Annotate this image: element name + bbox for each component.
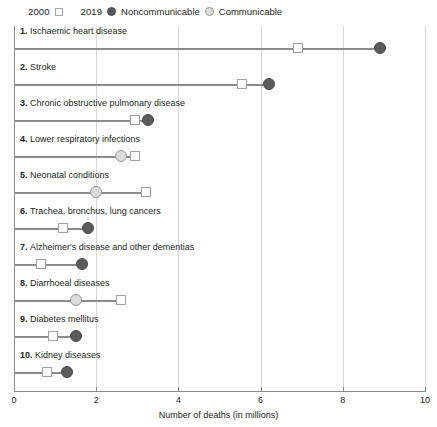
marker-2019[interactable] — [263, 78, 275, 90]
chart-row: 3. Chronic obstructive pulmonary disease — [0, 98, 437, 134]
legend-item-2019: 2019 Noncommunicable Communicable — [81, 7, 283, 17]
row-name: Chronic obstructive pulmonary disease — [30, 98, 185, 108]
row-label: 5. Neonatal conditions — [20, 170, 109, 181]
filled-circle-icon — [107, 7, 116, 16]
chart-row: 4. Lower respiratory infections — [0, 134, 437, 170]
row-rank: 10. — [20, 350, 35, 360]
row-label: 4. Lower respiratory infections — [20, 134, 140, 145]
marker-2019[interactable] — [115, 150, 127, 162]
chart-row: 9. Diabetes mellitus — [0, 314, 437, 350]
row-name: Diarrhoeal diseases — [30, 278, 110, 288]
marker-2000[interactable] — [237, 79, 247, 89]
chart-row: 2. Stroke — [0, 62, 437, 98]
row-rank: 9. — [20, 314, 30, 324]
tick-mark-0 — [14, 387, 15, 392]
tick-mark-4 — [178, 387, 179, 392]
row-label: 8. Diarrhoeal diseases — [20, 278, 110, 289]
hollow-square-icon — [55, 8, 63, 16]
tick-label-8: 8 — [340, 395, 345, 405]
row-name: Diabetes mellitus — [30, 314, 99, 324]
marker-2019[interactable] — [374, 42, 386, 54]
row-name: Neonatal conditions — [30, 170, 109, 180]
row-rank: 4. — [20, 134, 30, 144]
row-rank: 5. — [20, 170, 30, 180]
chart-legend: 2000 2019 Noncommunicable Communicable — [28, 7, 282, 17]
chart-row: 6. Trachea, bronchus, lung cancers — [0, 206, 437, 242]
row-connector-line — [14, 300, 121, 302]
row-connector-line — [14, 48, 380, 50]
marker-2000[interactable] — [48, 331, 58, 341]
row-connector-line — [14, 84, 269, 86]
row-connector-line — [14, 372, 67, 374]
marker-2019[interactable] — [61, 366, 73, 378]
row-name: Trachea, bronchus, lung cancers — [30, 206, 161, 216]
legend-label-communicable: Communicable — [219, 7, 282, 17]
chart-plot-area: 1. Ischaemic heart disease2. Stroke3. Ch… — [0, 26, 437, 391]
row-name: Alzheimer's disease and other dementias — [30, 242, 194, 252]
x-axis: 0246810 Number of deaths (in millions) — [0, 391, 437, 427]
tick-mark-8 — [343, 387, 344, 392]
x-axis-label: Number of deaths (in millions) — [0, 410, 437, 420]
row-connector-line — [14, 192, 146, 194]
marker-2000[interactable] — [116, 295, 126, 305]
chart-row: 10. Kidney diseases — [0, 350, 437, 386]
chart-row: 8. Diarrhoeal diseases — [0, 278, 437, 314]
row-label: 7. Alzheimer's disease and other dementi… — [20, 242, 194, 253]
marker-2019[interactable] — [82, 222, 94, 234]
marker-2019[interactable] — [70, 294, 82, 306]
tick-label-10: 10 — [420, 395, 430, 405]
row-label: 2. Stroke — [20, 62, 56, 73]
chart-row: 1. Ischaemic heart disease — [0, 26, 437, 62]
row-name: Kidney diseases — [35, 350, 101, 360]
tick-mark-6 — [261, 387, 262, 392]
hollow-circle-icon — [205, 7, 214, 16]
row-rank: 8. — [20, 278, 30, 288]
row-label: 10. Kidney diseases — [20, 350, 101, 361]
marker-2000[interactable] — [58, 223, 68, 233]
row-rank: 7. — [20, 242, 30, 252]
row-rank: 2. — [20, 62, 30, 72]
row-name: Lower respiratory infections — [30, 134, 140, 144]
marker-2000[interactable] — [130, 151, 140, 161]
marker-2019[interactable] — [70, 330, 82, 342]
row-label: 6. Trachea, bronchus, lung cancers — [20, 206, 161, 217]
legend-item-2000: 2000 — [28, 7, 63, 17]
marker-2000[interactable] — [130, 115, 140, 125]
marker-2000[interactable] — [42, 367, 52, 377]
tick-label-0: 0 — [11, 395, 16, 405]
marker-2000[interactable] — [36, 259, 46, 269]
tick-label-6: 6 — [258, 395, 263, 405]
row-connector-line — [14, 120, 148, 122]
tick-mark-2 — [96, 387, 97, 392]
row-label: 1. Ischaemic heart disease — [20, 26, 127, 37]
chart-row: 5. Neonatal conditions — [0, 170, 437, 206]
tick-label-2: 2 — [94, 395, 99, 405]
legend-label-2000: 2000 — [28, 7, 50, 17]
tick-label-4: 4 — [176, 395, 181, 405]
marker-2019[interactable] — [76, 258, 88, 270]
legend-label-2019: 2019 — [81, 7, 103, 17]
row-rank: 6. — [20, 206, 30, 216]
row-label: 3. Chronic obstructive pulmonary disease — [20, 98, 185, 109]
x-axis-line — [14, 391, 425, 392]
chart-row: 7. Alzheimer's disease and other dementi… — [0, 242, 437, 278]
marker-2019[interactable] — [90, 186, 102, 198]
row-rank: 1. — [20, 26, 30, 36]
marker-2000[interactable] — [293, 43, 303, 53]
tick-mark-10 — [425, 387, 426, 392]
row-name: Stroke — [30, 62, 56, 72]
row-rank: 3. — [20, 98, 30, 108]
row-name: Ischaemic heart disease — [30, 26, 127, 36]
legend-label-noncommunicable: Noncommunicable — [121, 7, 200, 17]
row-connector-line — [14, 228, 88, 230]
row-label: 9. Diabetes mellitus — [20, 314, 99, 325]
row-connector-line — [14, 336, 76, 338]
row-connector-line — [14, 264, 82, 266]
marker-2019[interactable] — [142, 114, 154, 126]
marker-2000[interactable] — [141, 187, 151, 197]
